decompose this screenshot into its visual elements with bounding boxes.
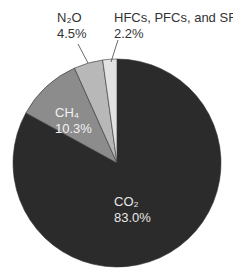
leader-line — [78, 44, 88, 63]
pie-chart: CO₂83.0%CH₄10.3%N₂O4.5%HFCs, PFCs, and S… — [0, 0, 233, 279]
label-n2o: N₂O4.5% — [57, 10, 87, 41]
label-hfcs: HFCs, PFCs, and SF₆2.2% — [114, 10, 233, 41]
